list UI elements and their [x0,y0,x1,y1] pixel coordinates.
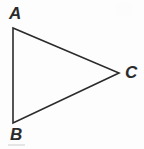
vertex-label-c: C [125,64,137,81]
scan-artifact-top-right [116,2,132,16]
scan-artifact-underline [8,144,25,146]
triangle-abc-shape [13,28,119,123]
vertex-label-a: A [9,5,21,22]
geometry-figure: A B C [0,0,144,149]
vertex-label-b: B [10,126,22,143]
